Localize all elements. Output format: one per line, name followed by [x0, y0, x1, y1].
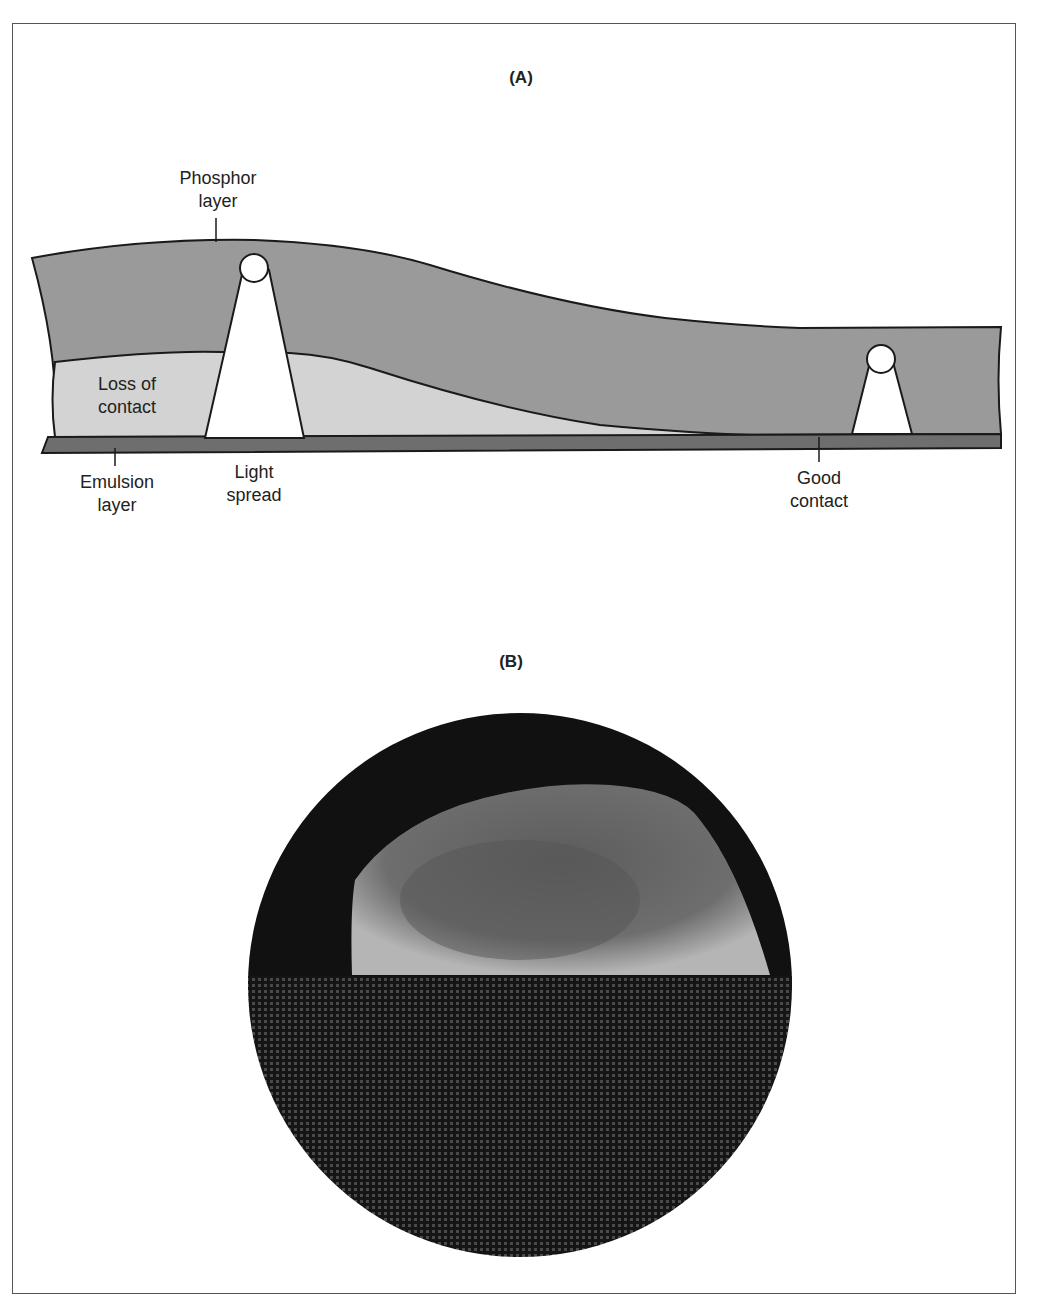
panel-b-radiograph: [240, 700, 800, 1276]
label-emulsion-line1: Emulsion: [80, 471, 154, 494]
label-good-line2: contact: [790, 490, 848, 513]
label-loss-line2: contact: [98, 396, 156, 419]
label-emulsion-line2: layer: [80, 494, 154, 517]
label-phosphor-layer: Phosphor layer: [179, 167, 256, 213]
label-light-line1: Light: [226, 461, 281, 484]
label-phosphor-line2: layer: [179, 190, 256, 213]
label-light-spread: Light spread: [226, 461, 281, 507]
label-loss-of-contact: Loss of contact: [98, 373, 156, 419]
label-light-line2: spread: [226, 484, 281, 507]
light-source-right: [867, 345, 895, 373]
emulsion-layer: [42, 434, 1001, 453]
light-source-left: [240, 254, 268, 282]
label-good-line1: Good: [790, 467, 848, 490]
grid-pattern-region: [240, 976, 800, 1276]
label-good-contact: Good contact: [790, 467, 848, 513]
label-loss-line1: Loss of: [98, 373, 156, 396]
panel-b-title: (B): [499, 652, 523, 672]
label-phosphor-line1: Phosphor: [179, 167, 256, 190]
label-emulsion-layer: Emulsion layer: [80, 471, 154, 517]
